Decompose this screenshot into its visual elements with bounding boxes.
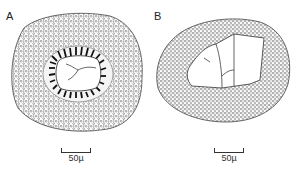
central-lumen <box>56 56 101 91</box>
scale-bar-label-a: 50µ <box>68 153 83 163</box>
panel-b: B 50µ <box>148 0 297 174</box>
panel-a: A <box>0 0 148 174</box>
scale-bar-label-b: 50µ <box>221 153 236 163</box>
scale-bar-a: 50µ <box>61 148 91 163</box>
scale-bar-b: 50µ <box>214 148 244 163</box>
